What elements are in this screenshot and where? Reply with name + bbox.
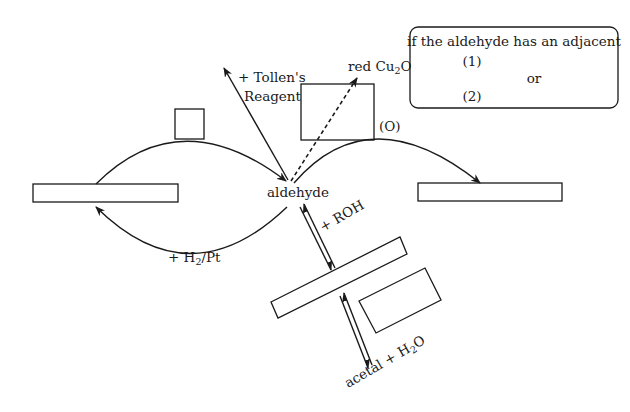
note-item-2: (2)	[462, 88, 481, 104]
acetal-label: acetal + H2O	[342, 332, 429, 393]
right-product-box	[418, 183, 562, 201]
oxidation-label: (O)	[379, 118, 401, 134]
red-cu2o-label: red Cu2O	[348, 58, 412, 76]
note-item-1: (1)	[462, 53, 481, 69]
aldehyde-reaction-diagram: if the aldehyde has an adjacent (1) or (…	[0, 0, 630, 412]
reduction-arrow	[96, 207, 287, 254]
tollens-label-line1: + Tollen's	[238, 69, 306, 85]
note-or: or	[527, 70, 542, 86]
arc-arrow-to-aldehyde	[96, 141, 286, 184]
oxidation-arrow	[294, 139, 480, 183]
note-box: if the aldehyde has an adjacent (1) or (…	[407, 27, 621, 108]
small-square-box	[175, 109, 204, 139]
h2pt-label: + H2/Pt	[168, 249, 221, 267]
aldehyde-label: aldehyde	[267, 184, 329, 200]
roh-label: + ROH	[317, 196, 367, 234]
tollens-label-line2: Reagent	[244, 88, 302, 104]
acetal-side-box	[359, 268, 441, 333]
left-product-box	[33, 184, 178, 202]
fehling-box	[301, 84, 374, 140]
note-heading: if the aldehyde has an adjacent	[407, 33, 621, 49]
